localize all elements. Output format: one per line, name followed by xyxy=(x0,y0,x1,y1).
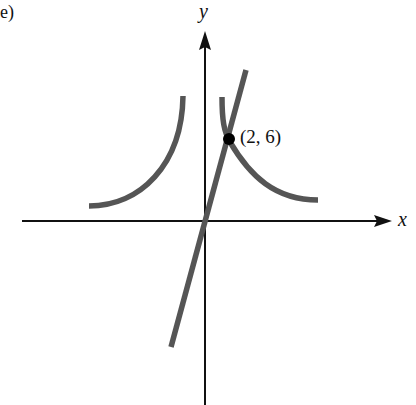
curve-left-branch xyxy=(89,96,183,206)
intersection-point xyxy=(223,133,235,145)
panel-label: e) xyxy=(0,2,14,23)
plot-canvas xyxy=(0,0,416,405)
intersection-point-label: (2, 6) xyxy=(240,126,281,148)
y-axis-label: y xyxy=(199,0,208,23)
graph-figure: e) y x (2, 6) xyxy=(0,0,416,405)
x-axis-label: x xyxy=(398,208,407,231)
